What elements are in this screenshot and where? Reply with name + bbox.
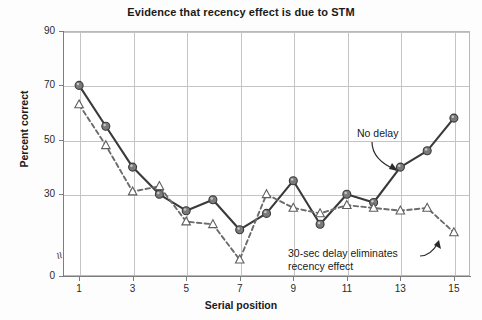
- x-tick-mark: [133, 276, 134, 281]
- x-tick-label: 1: [64, 283, 94, 294]
- y-tick-label: 70: [27, 79, 55, 90]
- x-axis-title: Serial position: [0, 299, 482, 311]
- x-axis-line: [63, 276, 471, 277]
- y-tick-label: 90: [27, 25, 55, 36]
- y-tick-label: 30: [27, 188, 55, 199]
- y-tick-mark: [59, 85, 64, 86]
- y-tick-label: 50: [27, 134, 55, 145]
- page-title: Evidence that recency effect is due to S…: [0, 6, 482, 18]
- x-tick-label: 5: [171, 283, 201, 294]
- y-tick-label: 0: [27, 270, 55, 281]
- x-tick-mark: [454, 276, 455, 281]
- y-axis-line: [63, 31, 64, 277]
- x-tick-mark: [79, 276, 80, 281]
- x-tick-mark: [347, 276, 348, 281]
- y-tick-mark: [59, 194, 64, 195]
- gridline-vertical: [134, 32, 135, 275]
- annotation-no-delay: No delay: [357, 127, 398, 140]
- x-tick-label: 13: [385, 283, 415, 294]
- gridline-vertical: [187, 32, 188, 275]
- gridline-vertical: [241, 32, 242, 275]
- x-tick-mark: [293, 276, 294, 281]
- x-tick-mark: [186, 276, 187, 281]
- gridline-horizontal: [64, 141, 469, 142]
- y-tick-mark: [59, 140, 64, 141]
- chart-screenshot: Evidence that recency effect is due to S…: [0, 0, 482, 320]
- gridline-horizontal: [64, 32, 469, 33]
- gridline-vertical: [401, 32, 402, 275]
- gridline-vertical: [294, 32, 295, 275]
- gridline-vertical: [455, 32, 456, 275]
- annotation-delay: 30-sec delay eliminates recency effect: [288, 247, 398, 273]
- x-tick-label: 15: [439, 283, 469, 294]
- x-tick-label: 9: [278, 283, 308, 294]
- x-tick-mark: [240, 276, 241, 281]
- gridline-vertical: [80, 32, 81, 275]
- plot-area: [63, 31, 470, 276]
- gridline-horizontal: [64, 86, 469, 87]
- x-tick-label: 7: [225, 283, 255, 294]
- x-tick-label: 11: [332, 283, 362, 294]
- y-tick-mark: [59, 31, 64, 32]
- x-tick-label: 3: [118, 283, 148, 294]
- y-tick-mark: [59, 276, 64, 277]
- gridline-horizontal: [64, 195, 469, 196]
- y-axis-title: Percent correct: [18, 69, 30, 189]
- gridline-vertical: [348, 32, 349, 275]
- x-tick-mark: [400, 276, 401, 281]
